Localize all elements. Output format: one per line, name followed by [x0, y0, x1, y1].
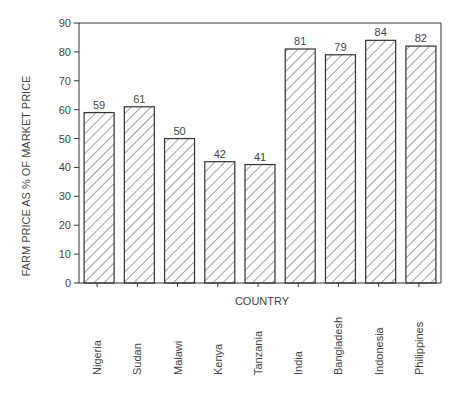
x-tick-label: Malawi: [172, 341, 184, 375]
y-tick-label: 90: [59, 17, 71, 29]
x-tick-label: Kenya: [212, 343, 224, 375]
x-tick-label: Bangladesh: [332, 317, 344, 375]
y-axis-label: FARM PRICE AS % OF MARKET PRICE: [20, 76, 32, 277]
y-tick-label: 20: [59, 219, 71, 231]
bar-sudan: 61: [124, 93, 154, 283]
x-tick-label: Nigeria: [91, 339, 103, 375]
bar-value-label: 42: [214, 148, 226, 160]
bar-india: 81: [285, 35, 315, 283]
x-tick-label: Philippines: [413, 321, 425, 375]
bar-philippines: 82: [406, 32, 436, 283]
bar-indonesia: 84: [366, 26, 396, 283]
bar-value-label: 82: [415, 32, 427, 44]
y-tick-label: 30: [59, 190, 71, 202]
bar-nigeria: 59: [84, 99, 114, 283]
bar-bangladesh: 79: [325, 41, 355, 283]
bar-value-label: 61: [133, 93, 145, 105]
y-tick-label: 50: [59, 133, 71, 145]
x-axis-label: COUNTRY: [235, 295, 290, 307]
y-tick-label: 60: [59, 104, 71, 116]
bar-kenya: 42: [205, 148, 235, 283]
y-axis: 0102030405060708090: [59, 17, 79, 289]
x-tick-label: Tanzania: [252, 330, 264, 375]
y-tick-label: 70: [59, 75, 71, 87]
x-tick-label: Indonesia: [373, 326, 385, 375]
bar-value-label: 50: [173, 125, 185, 137]
bar-value-label: 84: [375, 26, 387, 38]
y-tick-label: 0: [65, 277, 71, 289]
x-tick-label: Sudan: [131, 343, 143, 375]
bar-value-label: 81: [294, 35, 306, 47]
x-tick-label: India: [292, 350, 304, 375]
bar-malawi: 50: [165, 125, 195, 283]
bar-tanzania: 41: [245, 151, 275, 283]
bar-value-label: 41: [254, 151, 266, 163]
bar-value-label: 79: [334, 41, 346, 53]
y-tick-label: 10: [59, 248, 71, 260]
bar-value-label: 59: [93, 99, 105, 111]
y-tick-label: 80: [59, 46, 71, 58]
bars: 596150424181798482: [84, 26, 436, 283]
y-tick-label: 40: [59, 161, 71, 173]
bar-chart: 0102030405060708090 596150424181798482 N…: [0, 0, 461, 396]
